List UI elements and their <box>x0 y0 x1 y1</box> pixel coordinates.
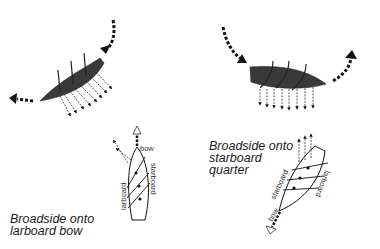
label-larboard: larboard <box>119 182 128 210</box>
ship-bottom-left: bow starboard larboard <box>114 126 158 220</box>
ship-top-right <box>223 27 357 109</box>
caption-broadside-larboard-bow: Broadside onto larboard bow <box>10 213 94 237</box>
movement-arrow-in <box>106 20 114 50</box>
broadside-arrows <box>260 87 313 109</box>
broadside-arrows <box>114 141 131 163</box>
label-starboard: starboard <box>149 163 158 195</box>
label-bow: bow <box>140 144 154 153</box>
caption-broadside-starboard-quarter: Broadside onto starboard quarter <box>209 140 293 176</box>
hull-outline <box>129 147 149 220</box>
movement-arrow-out <box>333 58 351 81</box>
movement-arrow-out <box>17 99 33 101</box>
hull-dark <box>40 58 104 101</box>
movement-arrow-in <box>223 27 240 58</box>
ship-top-left <box>9 20 114 115</box>
label-bow: bow <box>266 206 281 223</box>
